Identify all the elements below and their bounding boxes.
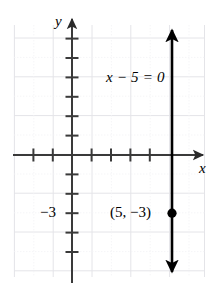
coordinate-plane-svg [0, 0, 218, 289]
y-tick-label-neg3: −3 [40, 205, 56, 220]
graph-figure: y x x − 5 = 0 (5, −3) −3 [0, 0, 218, 289]
y-axis-label: y [55, 14, 62, 29]
x-axis-label: x [199, 161, 206, 176]
y-axis [66, 19, 79, 283]
x-axis [13, 149, 203, 162]
grid-lines-minor [14, 25, 205, 277]
data-point-5-neg3 [167, 209, 176, 218]
grid-lines [14, 25, 205, 277]
point-coordinate-label: (5, −3) [110, 205, 151, 220]
equation-label: x − 5 = 0 [106, 70, 165, 85]
